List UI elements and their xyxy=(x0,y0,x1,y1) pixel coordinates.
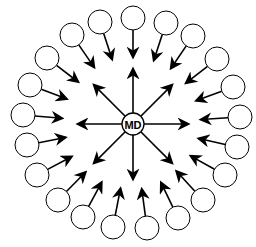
inward-arrow xyxy=(199,139,225,145)
inward-arrow xyxy=(186,66,207,83)
md-label: MD xyxy=(124,119,141,131)
inward-arrow xyxy=(41,89,66,99)
outer-circle xyxy=(121,6,145,30)
outer-node xyxy=(60,23,94,67)
outer-node xyxy=(186,47,229,83)
outer-node xyxy=(177,171,215,212)
inward-arrow xyxy=(161,183,173,207)
inward-arrow xyxy=(39,137,65,142)
outer-circle xyxy=(228,105,252,129)
outer-circle xyxy=(225,135,249,159)
outer-node xyxy=(171,24,205,68)
inward-arrow xyxy=(79,45,94,67)
outer-circle xyxy=(191,188,215,212)
md-hub-diagram: MD xyxy=(0,0,256,247)
outer-circle xyxy=(221,75,245,99)
outer-node xyxy=(161,183,190,230)
outer-circle xyxy=(135,216,159,240)
outer-node xyxy=(191,156,237,187)
inward-arrow xyxy=(115,189,120,216)
outgoing-arrow xyxy=(141,85,172,116)
outgoing-arrow xyxy=(94,85,125,116)
outer-circle xyxy=(205,47,229,71)
outer-node xyxy=(201,105,252,129)
inward-arrow xyxy=(196,91,221,100)
inward-arrow xyxy=(154,34,162,60)
outer-node xyxy=(199,135,249,159)
outgoing-arrow xyxy=(141,132,172,163)
outer-circle xyxy=(46,188,70,212)
outer-circle xyxy=(35,46,59,70)
inward-arrow xyxy=(142,189,146,216)
outer-circle xyxy=(60,23,84,47)
inward-arrow xyxy=(57,65,78,81)
inward-arrow xyxy=(48,157,72,170)
outer-node xyxy=(11,103,62,127)
inward-arrow xyxy=(191,156,215,169)
outer-node xyxy=(154,11,178,60)
outer-circle xyxy=(213,163,237,187)
outer-node xyxy=(25,157,71,187)
inward-arrow xyxy=(35,116,62,118)
inward-arrow xyxy=(201,118,228,120)
inward-arrow xyxy=(104,33,112,59)
outer-node xyxy=(135,189,159,240)
outer-node xyxy=(35,46,78,82)
outer-circle xyxy=(166,206,190,230)
inward-arrow xyxy=(89,183,102,207)
center-node: MD xyxy=(122,113,144,135)
inward-arrow xyxy=(171,46,186,68)
outer-circle xyxy=(15,133,39,157)
outer-node xyxy=(196,75,245,101)
outer-node xyxy=(101,189,125,239)
outer-node xyxy=(121,6,145,57)
outer-circle xyxy=(25,163,49,187)
outer-circle xyxy=(88,10,112,34)
inward-arrow xyxy=(66,172,85,191)
outer-circle xyxy=(181,24,205,48)
outer-circle xyxy=(11,103,35,127)
outer-node xyxy=(15,133,65,157)
outgoing-arrow xyxy=(94,132,125,163)
outer-node xyxy=(71,183,101,229)
outer-node xyxy=(18,73,66,99)
outer-circle xyxy=(18,73,42,97)
outer-circle xyxy=(71,205,95,229)
outer-node xyxy=(88,10,112,59)
outer-circle xyxy=(101,215,125,239)
outer-circle xyxy=(154,11,178,35)
inward-arrow xyxy=(177,171,195,191)
